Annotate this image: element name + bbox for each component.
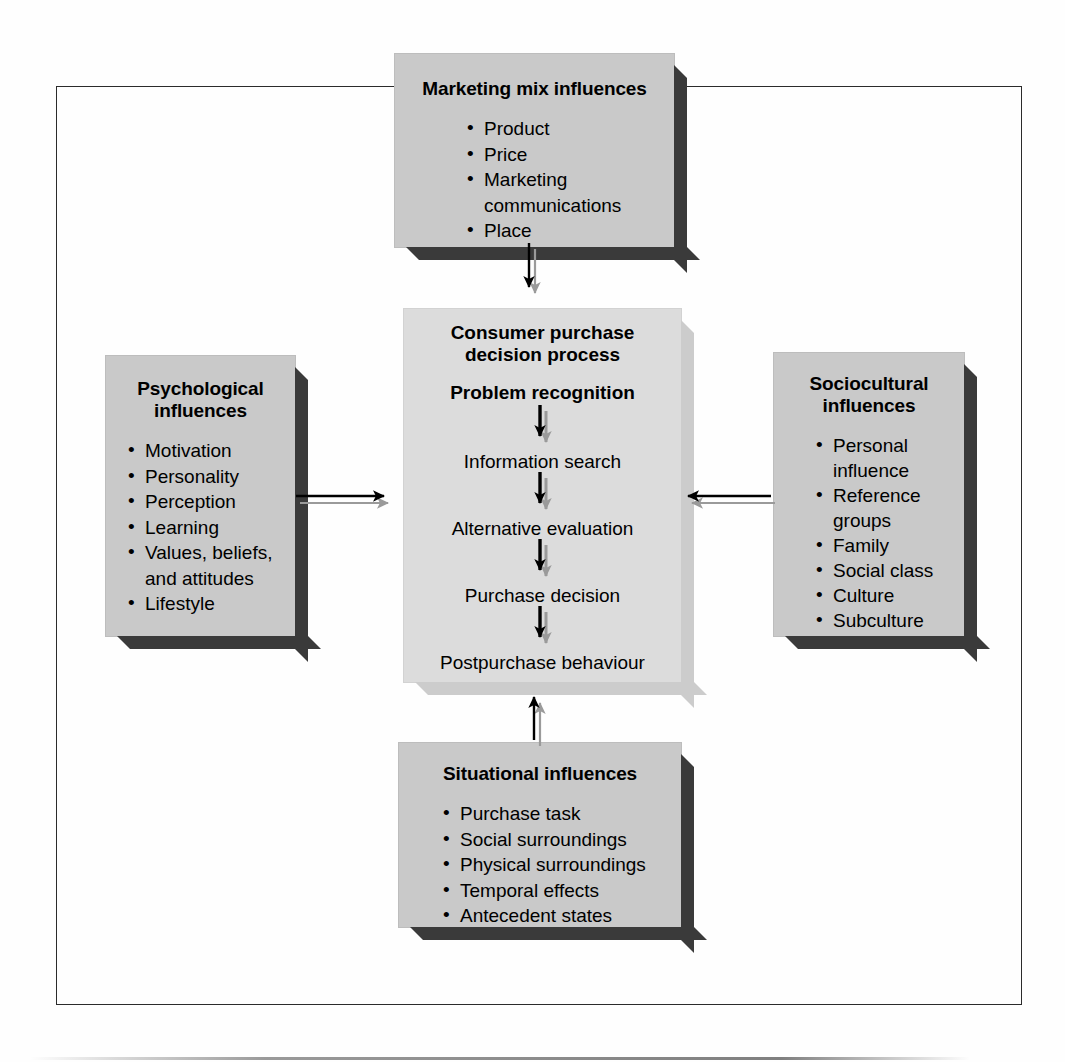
flow-step-alternative-evaluation: Alternative evaluation [404, 517, 681, 540]
list-item: Place [467, 218, 621, 244]
box-title-sociocultural: Sociocultural influences [774, 373, 964, 417]
box-title-psychological: Psychological influences [106, 378, 295, 422]
centre-title-line-1: Consumer purchase [404, 321, 681, 344]
list-item: Motivation [128, 438, 272, 464]
box-shadow-right [681, 754, 694, 953]
flow-step-postpurchase-behaviour: Postpurchase behaviour [404, 651, 681, 674]
list-item: Perception [128, 489, 272, 515]
box-title-marketing-mix: Marketing mix influences [395, 78, 674, 100]
flow-step-problem-recognition: Problem recognition [404, 381, 681, 404]
box-title-situational: Situational influences [399, 763, 681, 785]
list-item: Subculture [816, 608, 933, 633]
bullet-list-psychological: Motivation Personality Perception Learni… [128, 438, 272, 617]
list-item: Family [816, 533, 933, 558]
list-item: Values, beliefs, [128, 540, 272, 566]
list-item: Purchase task [443, 801, 646, 827]
list-item: Physical surroundings [443, 852, 646, 878]
box-shadow-bottom [785, 636, 990, 649]
list-item: Social surroundings [443, 827, 646, 853]
box-consumer-purchase-decision-process: Consumer purchase decision process Probl… [403, 308, 682, 683]
list-item: Antecedent states [443, 903, 646, 929]
scan-edge-artifact [30, 1057, 970, 1060]
bullet-list-situational: Purchase task Social surroundings Physic… [443, 801, 646, 929]
list-item: Culture [816, 583, 933, 608]
flow-step-information-search: Information search [404, 450, 681, 473]
box-shadow-right [674, 65, 687, 273]
box-shadow-right [681, 320, 694, 708]
figure-canvas: Marketing mix influences Product Price M… [0, 0, 1065, 1062]
list-item: Temporal effects [443, 878, 646, 904]
bullet-list-marketing-mix: Product Price Marketing communications P… [467, 116, 621, 244]
box-marketing-mix-influences: Marketing mix influences Product Price M… [394, 53, 675, 248]
box-shadow-bottom [406, 247, 700, 260]
list-item: Reference [816, 483, 933, 508]
list-item: Social class [816, 558, 933, 583]
box-psychological-influences: Psychological influences Motivation Pers… [105, 355, 296, 637]
box-sociocultural-influences: Sociocultural influences Personal influe… [773, 352, 965, 637]
list-item-continuation: influence [816, 458, 933, 483]
bullet-list-sociocultural: Personal influence Reference groups Fami… [816, 433, 933, 633]
box-shadow-right [295, 367, 308, 662]
box-shadow-bottom [410, 927, 707, 940]
list-item: Product [467, 116, 621, 142]
flow-step-purchase-decision: Purchase decision [404, 584, 681, 607]
list-item: Price [467, 142, 621, 168]
list-item: Learning [128, 515, 272, 541]
box-situational-influences: Situational influences Purchase task Soc… [398, 742, 682, 928]
box-shadow-right [964, 364, 977, 662]
box-shadow-bottom [117, 636, 321, 649]
list-item: Lifestyle [128, 591, 272, 617]
box-shadow-bottom [415, 682, 707, 695]
list-item-continuation: groups [816, 508, 933, 533]
list-item: Personal [816, 433, 933, 458]
list-item-continuation: and attitudes [128, 566, 272, 592]
list-item: Personality [128, 464, 272, 490]
centre-title-line-2: decision process [404, 343, 681, 366]
list-item: Marketing communications [467, 167, 621, 218]
